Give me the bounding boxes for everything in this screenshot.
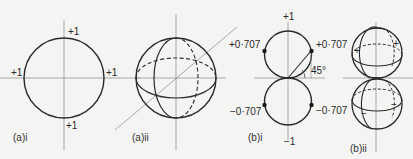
label-right: +1 — [106, 67, 118, 78]
caption-b-ii: (b)ii — [350, 143, 367, 154]
panel-b-ii: + + − − (b)ii — [343, 22, 413, 154]
caption-a-ii: (a)ii — [132, 132, 149, 143]
lower-right-sign: − — [391, 99, 397, 110]
point-lower-right — [309, 103, 313, 107]
upper-left-sign: + — [354, 45, 360, 56]
diagram-canvas: +1 +1 +1 +1 (a)i (a)ii +1 −1 +0·707 — [0, 0, 413, 159]
lower-meridian-front — [361, 78, 380, 129]
label-upper-left: +0·707 — [229, 39, 261, 50]
panel-a-ii: (a)ii — [115, 14, 237, 150]
upper-right-sign: + — [393, 38, 399, 49]
panel-b-i: +1 −1 +0·707 +0·707 −0·707 −0·707 45° (b… — [229, 11, 348, 147]
upper-meridian-front — [359, 27, 378, 78]
lower-left-sign: − — [361, 108, 367, 119]
label-lower-right: −0·707 — [316, 105, 348, 116]
label-upper-right: +0·707 — [316, 39, 348, 50]
point-upper-left — [262, 49, 266, 53]
label-bottom: −1 — [284, 136, 296, 147]
panel-a-i: +1 +1 +1 +1 (a)i — [0, 20, 140, 150]
label-bottom: +1 — [66, 120, 78, 131]
label-left: +1 — [11, 67, 23, 78]
label-angle: 45° — [311, 65, 326, 76]
caption-a-i: (a)i — [13, 132, 27, 143]
label-top: +1 — [283, 11, 295, 22]
label-lower-left: −0·707 — [230, 106, 262, 117]
caption-b-i: (b)i — [248, 132, 262, 143]
radius-45-line — [288, 51, 311, 78]
point-upper-right — [309, 49, 313, 53]
orbital-diagram: +1 +1 +1 +1 (a)i (a)ii +1 −1 +0·707 — [0, 0, 413, 159]
label-top: +1 — [68, 26, 80, 37]
point-lower-left — [262, 103, 266, 107]
